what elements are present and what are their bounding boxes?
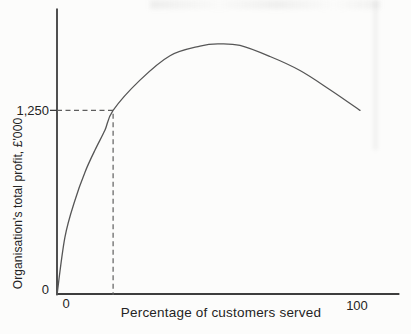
dashed-guide-lines (57, 110, 113, 295)
x-max-label: 100 (337, 299, 377, 313)
y-axis-title: Organisation's total profit, £'000 (12, 94, 27, 314)
profit-curve (57, 44, 360, 295)
profit-chart: 1,250 0 0 100 Percentage of customers se… (0, 0, 411, 334)
x-axis-title: Percentage of customers served (111, 306, 331, 321)
x-origin-label: 0 (56, 297, 76, 311)
profit-chart-svg (0, 0, 411, 334)
